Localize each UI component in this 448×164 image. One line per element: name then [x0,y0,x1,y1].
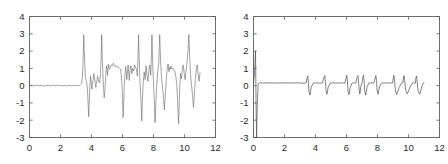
x-tick-label: 10 [403,142,414,153]
x-ticks-left [30,17,216,138]
y-tick-label: 2 [19,45,24,56]
x-tick-label: 12 [434,142,445,153]
x-tick-label: 6 [120,142,125,153]
plot-svg-left: -3-2-101234 024681012 [0,0,224,164]
plot-panel-right: -3-2-101234 024681012 [224,0,448,164]
y-tick-labels-left: -3-2-101234 [16,11,24,143]
signal-trace-right [254,51,425,137]
y-tick-label: -3 [240,132,248,143]
x-tick-label: 2 [58,142,63,153]
y-tick-label: 4 [19,11,24,22]
y-tick-label: -1 [16,97,24,108]
x-tick-label: 6 [344,142,349,153]
y-tick-labels-right: -3-2-101234 [240,11,248,143]
y-ticks-left [30,17,216,138]
figure-container: -3-2-101234 024681012 -3-2-101234 024681… [0,0,448,164]
x-tick-labels-left: 024681012 [27,142,221,153]
plot-svg-right: -3-2-101234 024681012 [224,0,448,164]
x-tick-label: 4 [313,142,318,153]
y-tick-label: 2 [243,45,248,56]
y-tick-label: 4 [243,11,248,22]
y-tick-label: -2 [16,115,24,126]
x-tick-label: 4 [89,142,94,153]
axes-frame-left [30,17,216,138]
x-tick-label: 10 [179,142,190,153]
y-tick-label: 3 [243,28,248,39]
x-tick-label: 8 [375,142,380,153]
y-tick-label: -3 [16,132,24,143]
signal-trace-left [30,35,201,124]
x-tick-labels-right: 024681012 [251,142,445,153]
x-tick-label: 8 [151,142,156,153]
plot-panel-left: -3-2-101234 024681012 [0,0,224,164]
y-tick-label: 0 [19,80,24,91]
x-tick-label: 2 [282,142,287,153]
y-tick-label: -1 [240,97,248,108]
x-tick-label: 0 [251,142,256,153]
y-tick-label: 1 [19,63,24,74]
y-tick-label: -2 [240,115,248,126]
y-tick-label: 3 [19,28,24,39]
x-tick-label: 0 [27,142,32,153]
y-tick-label: 0 [243,80,248,91]
y-tick-label: 1 [243,63,248,74]
x-tick-label: 12 [210,142,221,153]
